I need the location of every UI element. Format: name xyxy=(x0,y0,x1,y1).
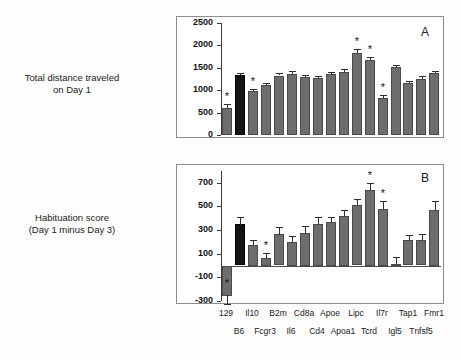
error-bar-cap xyxy=(237,73,244,74)
bar-fmr1 xyxy=(429,210,439,266)
error-bar-cap xyxy=(276,227,283,228)
panel-a: 05001000150020002500***** A xyxy=(176,16,444,138)
y-axis-tick-label: 1500 xyxy=(179,62,213,72)
y-axis-tick-label: 1000 xyxy=(179,84,213,94)
figure-container: Total distance traveled on Day 1 Habitua… xyxy=(0,0,461,360)
error-bar-cap xyxy=(367,183,374,184)
y-axis-tick xyxy=(217,206,221,207)
error-bar-cap xyxy=(302,75,309,76)
panel-b-axis-title: Habituation score (Day 1 minus Day 3) xyxy=(2,212,142,236)
significance-asterisk-lipc: * xyxy=(351,36,363,47)
panel-b-letter: B xyxy=(421,171,429,185)
error-bar-stem xyxy=(383,201,384,209)
bar-b6 xyxy=(235,224,245,265)
significance-asterisk-129: * xyxy=(221,278,233,289)
y-axis-tick xyxy=(217,254,221,255)
panel-a-axis-title-line1: Total distance traveled xyxy=(2,72,142,84)
y-axis-tick-label: 2000 xyxy=(179,39,213,49)
bar-cd8a xyxy=(300,77,310,135)
bar-cd4 xyxy=(313,224,323,266)
bar-129 xyxy=(222,108,232,135)
x-axis-label-igl5: Igl5 xyxy=(388,326,402,336)
error-bar-stem xyxy=(305,226,306,233)
bar-igl5 xyxy=(391,67,401,135)
error-bar-cap xyxy=(315,76,322,77)
x-axis-label-apoa1: Apoa1 xyxy=(331,326,356,336)
bar-tnfsf5 xyxy=(416,79,426,135)
bar-b2m xyxy=(274,234,284,265)
error-bar-cap xyxy=(250,240,257,241)
bar-cd4 xyxy=(313,78,323,135)
bar-b6 xyxy=(235,75,245,135)
panel-b-axis-title-line2: (Day 1 minus Day 3) xyxy=(2,224,142,236)
significance-asterisk-il7r: * xyxy=(377,188,389,199)
error-bar-cap xyxy=(432,71,439,72)
error-bar-cap xyxy=(419,234,426,235)
error-bar-stem xyxy=(357,199,358,206)
error-bar-cap xyxy=(393,65,400,66)
y-axis-tick xyxy=(217,68,221,69)
error-bar-stem xyxy=(370,183,371,190)
error-bar-stem xyxy=(240,217,241,225)
error-bar-cap xyxy=(237,217,244,218)
bar-il10 xyxy=(248,91,258,135)
panel-b: -300-100100300500700**** B xyxy=(176,164,444,304)
bar-apoa1 xyxy=(339,216,349,266)
x-axis-label-tcrd: Tcrd xyxy=(361,326,377,336)
y-axis-tick-label: -300 xyxy=(179,295,213,305)
y-axis-tick xyxy=(217,230,221,231)
y-axis-tick xyxy=(217,183,221,184)
y-axis-tick xyxy=(217,45,221,46)
bar-apoe xyxy=(326,74,336,135)
bar-lipc xyxy=(352,205,362,265)
bar-tap1 xyxy=(403,83,413,135)
error-bar-cap xyxy=(380,201,387,202)
x-axis-label-b2m: B2m xyxy=(269,308,286,318)
x-axis-labels: 129B6Il10Fcgr3B2mIl6Cd8aCd4ApoeApoa1Lipc… xyxy=(176,308,444,356)
y-axis-tick-label: 100 xyxy=(179,248,213,258)
y-axis-tick-label: 500 xyxy=(179,200,213,210)
x-axis-label-fmr1: Fmr1 xyxy=(424,308,444,318)
bar-fcgr3 xyxy=(261,258,271,266)
x-axis-label-tnfsf5: Tnfsf5 xyxy=(409,326,433,336)
significance-asterisk-il10: * xyxy=(247,76,259,87)
x-axis-label-tap1: Tap1 xyxy=(399,308,417,318)
error-bar-cap xyxy=(224,304,231,305)
y-axis-tick xyxy=(217,301,221,302)
significance-asterisk-il7r: * xyxy=(377,82,389,93)
x-axis-label-cd8a: Cd8a xyxy=(294,308,314,318)
panel-a-axis-title-line2: on Day 1 xyxy=(2,84,142,96)
bar-tap1 xyxy=(403,240,413,265)
bar-tcrd xyxy=(365,190,375,266)
error-bar-stem xyxy=(396,257,397,264)
error-bar-stem xyxy=(279,227,280,235)
significance-asterisk-tcrd: * xyxy=(364,44,376,55)
error-bar-cap xyxy=(354,199,361,200)
x-axis-label-cd4: Cd4 xyxy=(309,326,325,336)
bar-fmr1 xyxy=(429,73,439,135)
bar-il6 xyxy=(287,74,297,135)
panel-a-letter: A xyxy=(421,25,429,39)
bar-tnfsf5 xyxy=(416,240,426,265)
y-axis-tick-label: -100 xyxy=(179,271,213,281)
bar-lipc xyxy=(352,53,362,135)
x-axis-label-apoe: Apoe xyxy=(320,308,340,318)
error-bar-cap xyxy=(367,57,374,58)
y-axis-tick-label: 500 xyxy=(179,107,213,117)
bar-il10 xyxy=(248,245,258,266)
bar-apoe xyxy=(326,222,336,266)
error-bar-stem xyxy=(435,201,436,210)
error-bar-cap xyxy=(289,71,296,72)
error-bar-cap xyxy=(419,76,426,77)
error-bar-cap xyxy=(328,217,335,218)
bar-fcgr3 xyxy=(261,85,271,135)
error-bar-cap xyxy=(263,83,270,84)
bar-tcrd xyxy=(365,60,375,135)
y-axis-tick xyxy=(217,113,221,114)
x-axis-label-129: 129 xyxy=(219,308,233,318)
error-bar-stem xyxy=(318,217,319,224)
error-bar-cap xyxy=(302,226,309,227)
error-bar-cap xyxy=(406,81,413,82)
y-axis-tick-label: 300 xyxy=(179,224,213,234)
bar-b2m xyxy=(274,76,284,135)
